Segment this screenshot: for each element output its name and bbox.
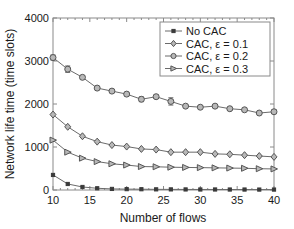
data-point-square [81, 185, 84, 188]
data-point-square [110, 187, 113, 190]
data-point-diamond [242, 152, 248, 159]
data-point-diamond [153, 146, 159, 153]
data-point-triangle [94, 159, 101, 165]
data-point-circle [124, 91, 130, 97]
data-point-circle [153, 94, 159, 100]
data-point-circle [138, 96, 144, 102]
legend-label: CAC, ε = 0.2 [186, 50, 248, 62]
data-point-square [228, 188, 231, 191]
data-point-circle [227, 106, 233, 112]
data-point-diamond [138, 145, 144, 152]
figure-container: 01000200030004000 10152025303540 No CACC… [0, 0, 294, 229]
data-point-square [51, 173, 54, 176]
data-point-square [169, 188, 172, 191]
data-point-circle [79, 74, 85, 80]
x-tick-label: 35 [231, 194, 243, 206]
data-point-circle [171, 53, 176, 58]
data-point-diamond [183, 149, 189, 156]
data-point-square [184, 188, 187, 191]
data-point-triangle [197, 165, 204, 171]
data-point-diamond [256, 153, 262, 160]
x-tick-label: 25 [157, 194, 169, 206]
data-point-triangle [65, 149, 72, 155]
x-tick-label: 20 [121, 194, 133, 206]
data-point-square [155, 188, 158, 191]
x-tick-label: 10 [47, 194, 59, 206]
y-tick-label: 3000 [25, 55, 49, 67]
legend-label: CAC, ε = 0.3 [186, 63, 248, 75]
legend-label: No CAC [186, 25, 226, 37]
data-point-circle [197, 104, 203, 110]
y-tick-label: 2000 [25, 98, 49, 110]
data-point-circle [183, 103, 189, 109]
data-point-triangle [168, 164, 175, 170]
data-point-triangle [79, 155, 86, 161]
data-point-square [243, 188, 246, 191]
data-point-circle [109, 88, 115, 94]
data-point-circle [168, 98, 174, 104]
line-chart: 01000200030004000 10152025303540 No CACC… [0, 0, 294, 229]
series-polyline [53, 115, 274, 157]
data-point-diamond [79, 133, 85, 140]
data-point-triangle [138, 164, 145, 170]
x-tick-label: 30 [194, 194, 206, 206]
data-point-square [213, 188, 216, 191]
data-point-diamond [65, 123, 71, 130]
data-point-diamond [94, 138, 100, 145]
data-point-square [272, 188, 275, 191]
data-point-diamond [271, 153, 277, 160]
chart-legend: No CACCAC, ε = 0.1CAC, ε = 0.2CAC, ε = 0… [160, 22, 270, 76]
data-point-triangle [256, 166, 263, 172]
data-point-triangle [153, 164, 160, 170]
data-point-square [199, 188, 202, 191]
data-point-triangle [109, 161, 116, 167]
data-point-square [140, 188, 143, 191]
data-point-triangle [124, 162, 131, 168]
data-point-diamond [50, 111, 56, 118]
legend-label: CAC, ε = 0.1 [186, 38, 248, 50]
data-point-circle [256, 110, 262, 116]
x-tick-label: 40 [268, 194, 280, 206]
data-point-diamond [212, 150, 218, 157]
data-point-triangle [227, 165, 234, 171]
data-point-square [172, 29, 175, 32]
data-point-square [125, 188, 128, 191]
data-point-circle [65, 66, 71, 72]
data-point-square [66, 182, 69, 185]
data-point-diamond [168, 149, 174, 156]
data-point-circle [50, 55, 56, 61]
y-tick-label: 1000 [25, 141, 49, 153]
y-tick-label: 4000 [25, 12, 49, 24]
data-point-circle [212, 103, 218, 109]
x-tick-label: 15 [84, 194, 96, 206]
data-point-triangle [212, 165, 219, 171]
x-axis-label: Number of flows [120, 211, 207, 225]
data-point-triangle [242, 165, 249, 171]
data-point-diamond [227, 151, 233, 158]
data-point-diamond [109, 142, 115, 149]
data-point-triangle [183, 164, 190, 170]
data-point-square [96, 187, 99, 190]
data-point-circle [242, 107, 248, 113]
data-point-circle [271, 109, 277, 115]
series-2 [50, 111, 277, 160]
data-point-diamond [197, 149, 203, 156]
y-axis-label: Network life time (time slots) [3, 29, 17, 180]
data-point-circle [94, 85, 100, 91]
data-point-square [258, 188, 261, 191]
data-point-diamond [124, 143, 130, 150]
